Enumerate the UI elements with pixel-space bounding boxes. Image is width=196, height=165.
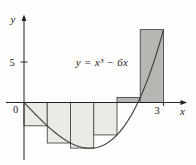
y-axis-label: y — [10, 13, 16, 25]
riemann-rectangle — [71, 103, 94, 149]
equation-label: y = x³ − 6x — [75, 56, 129, 68]
riemann-rectangle — [94, 103, 117, 135]
y-tick-5-label: 5 — [9, 57, 14, 68]
riemann-rectangle — [47, 103, 70, 144]
y-axis-arrowhead-icon — [22, 15, 27, 22]
origin-label: 0 — [13, 104, 18, 115]
riemann-rectangle — [117, 97, 140, 102]
riemann-rectangles — [24, 30, 164, 148]
riemann-chart: y x 5 0 3 y = x³ − 6x — [0, 0, 196, 165]
x-axis-label: x — [179, 105, 185, 117]
riemann-sum-figure: y x 5 0 3 y = x³ − 6x — [0, 0, 196, 165]
x-tick-3-label: 3 — [154, 105, 159, 116]
